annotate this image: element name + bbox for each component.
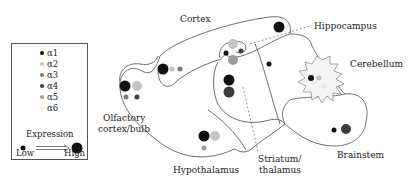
cortex-expression-dot xyxy=(158,64,169,75)
thalamus-divider xyxy=(255,44,280,124)
cortex-expression-dot xyxy=(170,67,175,72)
hippocampus-expression-dot xyxy=(224,51,229,56)
cortex-label: Cortex xyxy=(180,14,211,25)
hypothalamus-expression-dot xyxy=(199,131,210,142)
legend-item-a5: α5 xyxy=(40,92,58,102)
striatum-expression-dot xyxy=(224,75,235,86)
striatum-expression-dot xyxy=(224,87,235,98)
striatum-leader-line xyxy=(243,87,258,152)
hypothalamus-label: Hypothalamus xyxy=(173,165,239,176)
a5-dot-icon xyxy=(40,95,44,99)
legend-item-a2: α2 xyxy=(40,59,58,69)
a2-dot-icon xyxy=(40,62,44,66)
hypothalamus-boundary xyxy=(208,110,246,150)
legend-item-a4: α4 xyxy=(40,81,58,91)
cerebellum-expression-dot xyxy=(321,83,327,89)
cerebellum-label: Cerebellum xyxy=(350,59,403,70)
cerebellum-expression-dot xyxy=(308,75,314,81)
hippocampus-expression-dot xyxy=(239,49,244,54)
hippocampus-expression-dot xyxy=(228,39,238,49)
a4-dot-icon xyxy=(40,84,44,88)
legend-item-a3: α3 xyxy=(40,70,58,80)
low-label: Low xyxy=(16,148,34,159)
brainstem-label: Brainstem xyxy=(337,150,384,161)
legend-item-a1: α1 xyxy=(40,48,58,58)
striatum-label-line2: thalamus xyxy=(259,165,301,176)
thalamus-expression-dot xyxy=(267,62,272,67)
brainstem-expression-dot xyxy=(332,128,337,133)
hypothalamus-expression-dot xyxy=(210,131,220,141)
cortex-expression-dot xyxy=(274,22,285,33)
legend-item-a6: α6 xyxy=(40,103,58,113)
cortex-expression-dot xyxy=(178,67,183,72)
olfactory-expression-dot xyxy=(135,95,140,100)
expression-title: Expression xyxy=(26,129,74,140)
gabaa-expression-diagram: α1 α2 α3 α4 α5 α6 Expression xyxy=(0,0,416,186)
hippocampus-label: Hippocampus xyxy=(314,21,377,32)
a3-dot-icon xyxy=(40,73,44,77)
olfactory-label-line1: Olfactory xyxy=(103,113,145,124)
high-label: High xyxy=(64,148,85,159)
olfactory-label-line2: cortex/bulb xyxy=(98,124,150,135)
olfactory-expression-dot xyxy=(132,81,142,91)
striatum-label-line1: Striatum/ xyxy=(258,154,301,165)
hippocampus-expression-dot xyxy=(228,55,238,65)
legend: α1 α2 α3 α4 α5 α6 Expression xyxy=(11,43,88,160)
a6-dot-icon xyxy=(40,106,44,110)
cerebellum-expression-dot xyxy=(317,76,322,81)
olfactory-expression-dot xyxy=(120,81,131,92)
olfactory-expression-dot xyxy=(124,95,129,100)
a1-dot-icon xyxy=(40,51,44,55)
hypothalamus-expression-dot xyxy=(202,146,207,151)
brainstem-expression-dot xyxy=(341,124,351,134)
